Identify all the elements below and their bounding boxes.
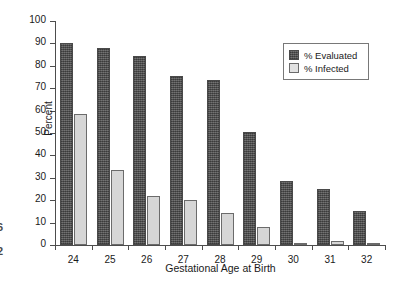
chart-figure: 6 2 0102030405060708090100 2425262728293… bbox=[0, 0, 415, 290]
bar-evaluated-27 bbox=[170, 76, 183, 245]
x-axis-title: Gestational Age at Birth bbox=[55, 262, 386, 274]
y-tick-label: 20 bbox=[35, 193, 46, 204]
legend-swatch-evaluated-icon bbox=[289, 50, 299, 60]
bar-infected-29 bbox=[257, 227, 270, 245]
x-tick bbox=[275, 245, 276, 250]
x-tick bbox=[348, 245, 349, 250]
chart-legend: % Evaluated% Infected bbox=[283, 43, 369, 80]
y-tick-label: 90 bbox=[35, 36, 46, 47]
bar-infected-27 bbox=[184, 200, 197, 245]
legend-label: % Evaluated bbox=[304, 50, 357, 61]
bar-evaluated-25 bbox=[97, 48, 110, 245]
y-tick: 10 bbox=[50, 223, 55, 224]
bar-evaluated-29 bbox=[243, 132, 256, 245]
y-tick: 30 bbox=[50, 178, 55, 179]
x-axis-line bbox=[55, 245, 386, 246]
bar-evaluated-31 bbox=[317, 189, 330, 245]
bar-evaluated-24 bbox=[60, 43, 73, 245]
x-tick bbox=[312, 245, 313, 250]
bar-infected-32 bbox=[367, 243, 380, 245]
bar-infected-28 bbox=[221, 213, 234, 245]
bar-infected-24 bbox=[74, 114, 87, 245]
bar-infected-30 bbox=[294, 243, 307, 245]
edge-artifact-line-1: 6 bbox=[0, 222, 7, 232]
bar-infected-26 bbox=[147, 196, 160, 245]
edge-artifact-line-2: 2 bbox=[0, 246, 7, 256]
y-tick: 100 bbox=[50, 21, 55, 22]
x-tick bbox=[202, 245, 203, 250]
y-tick: 20 bbox=[50, 200, 55, 201]
x-tick bbox=[238, 245, 239, 250]
bar-evaluated-32 bbox=[353, 211, 366, 245]
y-tick: 80 bbox=[50, 66, 55, 67]
bar-evaluated-28 bbox=[207, 80, 220, 245]
x-tick bbox=[55, 245, 56, 250]
legend-swatch-infected-icon bbox=[289, 63, 299, 73]
x-tick bbox=[165, 245, 166, 250]
x-tick bbox=[92, 245, 93, 250]
bar-evaluated-26 bbox=[133, 56, 146, 245]
page-edge-artifact: 6 2 bbox=[0, 222, 7, 256]
x-tick bbox=[385, 245, 386, 250]
bar-infected-31 bbox=[331, 241, 344, 245]
y-tick-label: 70 bbox=[35, 81, 46, 92]
legend-item-evaluated: % Evaluated bbox=[289, 49, 363, 61]
x-tick bbox=[128, 245, 129, 250]
y-tick: 90 bbox=[50, 43, 55, 44]
y-tick-label: 10 bbox=[35, 216, 46, 227]
y-tick-label: 80 bbox=[35, 59, 46, 70]
y-tick: 40 bbox=[50, 155, 55, 156]
y-tick: 70 bbox=[50, 88, 55, 89]
bar-evaluated-30 bbox=[280, 181, 293, 245]
y-tick-label: 100 bbox=[29, 14, 46, 25]
bar-infected-25 bbox=[111, 170, 124, 245]
legend-label: % Infected bbox=[304, 63, 349, 74]
y-tick-label: 40 bbox=[35, 148, 46, 159]
y-tick-label: 0 bbox=[40, 238, 46, 249]
legend-item-infected: % Infected bbox=[289, 62, 363, 74]
y-axis-title: Percent bbox=[43, 101, 54, 135]
y-tick-label: 30 bbox=[35, 171, 46, 182]
